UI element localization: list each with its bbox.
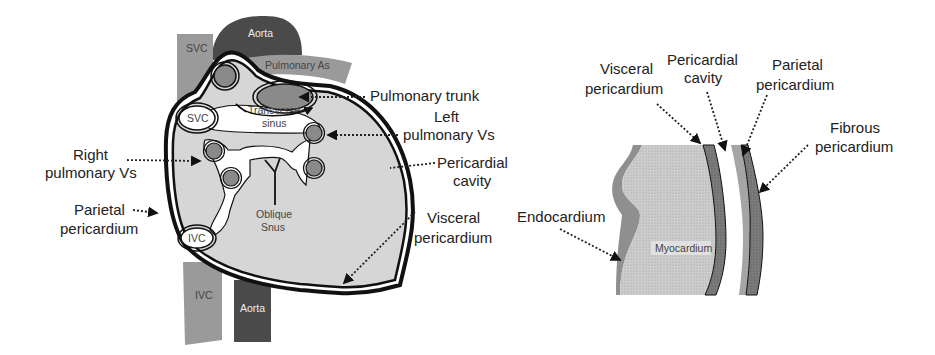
aorta-top-label: Aorta (248, 27, 273, 39)
left-pulmonary-vein-lower (304, 158, 325, 179)
ivc-inner-label: IVC (188, 232, 206, 244)
oblique-sinus-label-1: Oblique (256, 208, 292, 220)
callout-right-pv-2: pulmonary Vs (45, 164, 137, 181)
left-pulmonary-vein-upper (304, 123, 325, 144)
callout-pulmonary-trunk: Pulmonary trunk (370, 87, 480, 104)
callout-pericardial-cavity-1: Pericardial (437, 154, 508, 171)
callout-parietal-2: pericardium (60, 220, 138, 237)
callout-pericardial-cavity-2: cavity (453, 172, 492, 189)
oblique-sinus-label-2: Snus (261, 221, 285, 233)
r-callout-fibrous-1: Fibrous (830, 119, 880, 136)
ivc-inner-vessel: IVC (178, 225, 216, 251)
ivc-vessel-bottom: IVC (183, 262, 222, 345)
callout-left-pv-1: Left (434, 108, 460, 125)
transverse-sinus-label-2: sinus (262, 117, 287, 129)
myocardium-label: Myocardium (655, 242, 712, 254)
pericardial-layers-section: Myocardium Visceral pericardium Pericard… (517, 51, 893, 295)
callout-parietal-1: Parietal (74, 201, 125, 218)
right-pulmonary-vein-upper (204, 141, 225, 162)
r-callout-endocardium: Endocardium (517, 208, 605, 225)
r-callout-fibrous-2: pericardium (815, 138, 893, 155)
callout-right-pv-1: Right (73, 146, 109, 163)
pulmonary-as-label: Pulmonary As (265, 59, 330, 71)
right-pulmonary-vein-lower (221, 168, 242, 189)
r-callout-cavity-2: cavity (684, 69, 723, 86)
r-callout-cavity-1: Pericardial (667, 51, 738, 68)
callout-visceral-2: pericardium (414, 229, 492, 246)
r-callout-visceral-2: pericardium (585, 80, 663, 97)
r-callout-parietal-1: Parietal (772, 56, 823, 73)
svc-inner-vessel: SVC (176, 103, 218, 133)
aorta-vessel-bottom: Aorta (234, 280, 271, 342)
aorta-inner-vessel (214, 65, 236, 87)
r-callout-parietal-2: pericardium (756, 76, 834, 93)
pericardium-diagram: SVC Aorta Pulmonary As IVC Aorta (0, 0, 935, 355)
r-callout-visceral-1: Visceral (600, 60, 653, 77)
svc-inner-label: SVC (187, 112, 209, 124)
callout-visceral-1: Visceral (427, 209, 480, 226)
aorta-bottom-label: Aorta (240, 302, 265, 314)
heart-cross-section: SVC Aorta Pulmonary As IVC Aorta (45, 16, 508, 345)
callout-left-pv-2: pulmonary Vs (403, 126, 495, 143)
ivc-bottom-label: IVC (195, 289, 213, 301)
svc-top-label: SVC (186, 42, 208, 54)
